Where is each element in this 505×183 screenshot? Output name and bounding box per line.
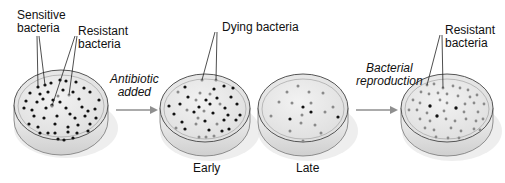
petri-dish-early: [160, 74, 260, 161]
label-antibiotic-added: Antibiotic added: [110, 73, 159, 99]
label-sensitive-bacteria: Sensitive bacteria: [17, 9, 66, 35]
label-line: reproduction: [356, 75, 423, 88]
label-dying-bacteria: Dying bacteria: [222, 21, 299, 34]
label-line: added: [110, 86, 159, 99]
petri-dish-late: [258, 74, 358, 161]
arrow-antibiotic: [116, 106, 158, 114]
arrow-reproduction: [356, 106, 398, 114]
label-late: Late: [296, 162, 319, 175]
label-bacterial-reproduction: Bacterial reproduction: [356, 62, 423, 88]
label-resistant-bacteria-right: Resistant bacteria: [445, 24, 495, 50]
label-line: bacteria: [445, 37, 495, 50]
label-line: bacteria: [78, 38, 128, 51]
label-early: Early: [193, 162, 220, 175]
label-resistant-bacteria-left: Resistant bacteria: [78, 25, 128, 51]
label-line: bacteria: [17, 22, 66, 35]
petri-dish-initial: [14, 70, 118, 158]
